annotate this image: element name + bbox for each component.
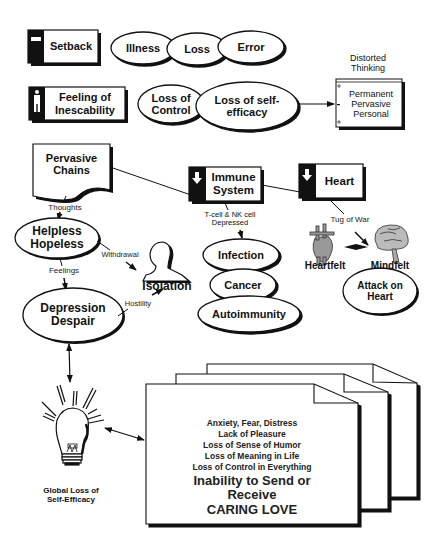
pervasive-chains-node: Pervasive Chains	[33, 144, 110, 184]
isolation-label: Isolation	[138, 280, 196, 294]
symptom-item: Loss of Sense of Humor	[146, 440, 358, 451]
distorted-thinking-items: Permanent Pervasive Personal	[340, 82, 402, 126]
minus-icon	[31, 37, 41, 41]
illness-node: Illness	[111, 32, 175, 64]
depression-despair-node: Depression Despair	[23, 288, 123, 342]
error-node: Error	[218, 31, 284, 63]
symptom-list: Anxiety, Fear, Distress Lack of Pleasure…	[146, 418, 358, 517]
symptom-item: Loss of Control in Everything	[146, 462, 358, 473]
immune-system-label: Immune System	[206, 167, 261, 201]
heart-label: Heart	[316, 164, 363, 198]
light-bulb-icon	[42, 385, 104, 465]
autoimmunity-node: Autoimmunity	[198, 296, 300, 332]
symptom-item: Anxiety, Fear, Distress	[146, 418, 358, 429]
inability-statement: Inability to Send or Receive	[146, 474, 358, 502]
infection-node: Infection	[203, 239, 279, 271]
tug-of-war-label: Tug of War	[320, 215, 380, 225]
hostility-label: Hostility	[118, 299, 158, 309]
brain-icon	[375, 225, 408, 263]
attack-on-heart-node: Attack on Heart	[343, 268, 417, 314]
caring-love-statement: CARING LOVE	[146, 502, 358, 517]
person-silhouette-icon	[143, 242, 192, 283]
loss-of-self-efficacy-node: Loss of self- efficacy	[196, 82, 298, 130]
symptom-item: Loss of Meaning in Life	[146, 451, 358, 462]
thoughts-label: Thoughts	[40, 203, 90, 213]
symptom-item: Lack of Pleasure	[146, 429, 358, 440]
anatomical-heart-icon	[310, 224, 334, 265]
feeling-of-inescability-label: Feeling of Inescability	[45, 87, 125, 120]
setback-label: Setback	[44, 30, 98, 63]
distorted-thinking-caption: Distorted Thinking	[328, 50, 408, 76]
feelings-label: Feelings	[40, 266, 88, 276]
withdrawal-label: Withdrawal	[94, 250, 146, 260]
helpless-hopeless-node: Helpless Hopeless	[15, 218, 99, 258]
loss-of-control-node: Loss of Control	[138, 85, 204, 123]
immune-note: T-cell & NK cell Depressed	[190, 208, 270, 230]
stress-diagram: Setback Illness Loss Error Feeling of In…	[0, 0, 440, 551]
global-loss-caption: Global Loss of Self-Efficacy	[28, 484, 114, 508]
